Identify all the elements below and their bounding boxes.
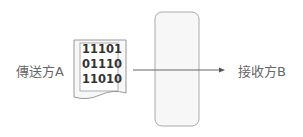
sender-label: 傳送方A (16, 61, 64, 80)
receiver-label: 接收方B (238, 61, 286, 80)
bits-line: 01110 (82, 57, 122, 72)
bits-line: 11010 (82, 72, 122, 87)
channel-box (155, 12, 199, 126)
bits-line: 11101 (82, 42, 122, 57)
document-bits: 11101 01110 11010 (82, 42, 122, 87)
arrow-head-icon (219, 68, 225, 73)
